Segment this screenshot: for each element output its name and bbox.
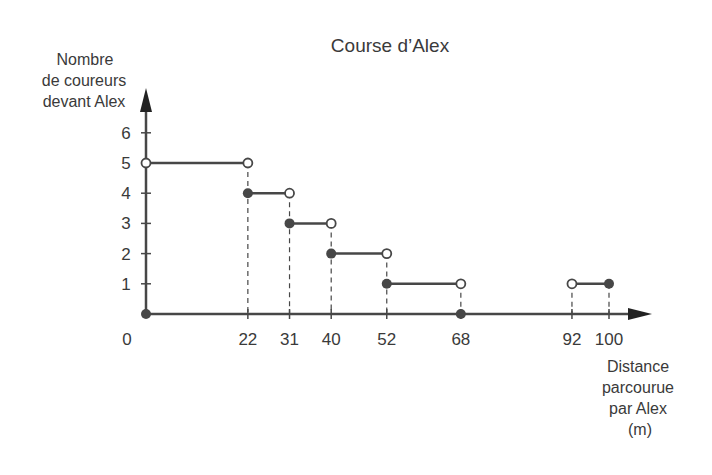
x-axis-label-line: par Alex xyxy=(609,400,667,417)
x-axis-label-line: (m) xyxy=(628,421,652,438)
y-axis-label-line: de coureurs xyxy=(42,72,127,89)
guide-lines xyxy=(248,163,609,314)
open-point xyxy=(142,159,151,168)
y-tick-label: 3 xyxy=(121,214,130,233)
y-axis-label-line: Nombre xyxy=(57,51,114,68)
x-tick-label: 68 xyxy=(451,330,470,349)
step-chart: Course d’Alex Nombre de coureurs devant … xyxy=(0,0,712,475)
y-axis-label: Nombre de coureurs devant Alex xyxy=(42,51,127,110)
closed-point xyxy=(141,309,151,319)
origin-label: 0 xyxy=(122,330,131,349)
chart-title: Course d’Alex xyxy=(331,35,450,56)
x-tick-label: 31 xyxy=(280,330,299,349)
x-axis-label-line: parcourue xyxy=(602,379,674,396)
closed-point xyxy=(285,218,295,228)
x-tick-label: 92 xyxy=(562,330,581,349)
y-tick-label: 5 xyxy=(121,154,130,173)
open-point xyxy=(285,189,294,198)
open-point xyxy=(382,249,391,258)
closed-point xyxy=(604,279,614,289)
closed-point xyxy=(456,309,466,319)
x-tick-label: 52 xyxy=(377,330,396,349)
closed-point xyxy=(382,279,392,289)
y-axis-label-line: devant Alex xyxy=(43,93,126,110)
y-tick-label: 1 xyxy=(121,275,130,294)
y-axis-arrow-icon xyxy=(140,88,152,112)
open-point xyxy=(567,279,576,288)
x-axis-arrow-icon xyxy=(628,308,652,320)
open-point xyxy=(327,219,336,228)
x-tick-label: 100 xyxy=(595,330,623,349)
step-segments xyxy=(146,163,609,284)
x-axis-label-line: Distance xyxy=(607,358,669,375)
endpoints xyxy=(141,159,614,320)
closed-point xyxy=(326,249,336,259)
y-tick-label: 4 xyxy=(121,184,130,203)
open-point xyxy=(456,279,465,288)
closed-point xyxy=(243,188,253,198)
y-tick-label: 2 xyxy=(121,245,130,264)
open-point xyxy=(243,159,252,168)
x-tick-label: 22 xyxy=(238,330,257,349)
y-tick-label: 6 xyxy=(121,124,130,143)
x-tick-label: 40 xyxy=(322,330,341,349)
x-axis-label: Distance parcourue par Alex (m) xyxy=(602,358,674,438)
